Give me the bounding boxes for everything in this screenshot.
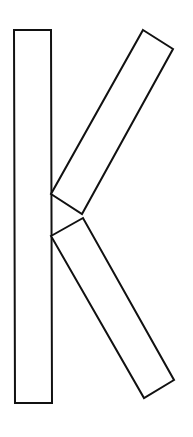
vertical-stem — [14, 30, 52, 403]
letter-k-figure — [0, 0, 193, 437]
upper-diagonal-arm — [51, 30, 173, 214]
letter-k-diagram — [0, 0, 193, 437]
lower-diagonal-arm — [51, 218, 174, 398]
